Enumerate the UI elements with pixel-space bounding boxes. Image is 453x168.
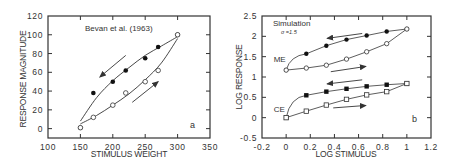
y-tick-label: 0 xyxy=(252,113,257,123)
panel-a-y-axis-title: RESPONSE MAGNITUDE xyxy=(18,30,28,128)
fit-curve xyxy=(80,37,177,121)
y-tick-label: 100 xyxy=(27,30,43,40)
open-circle-marker xyxy=(344,57,348,61)
open-circle-marker xyxy=(175,32,180,37)
panel-b-y-axis-title: LOG RESPONSE xyxy=(234,44,244,110)
filled-square-marker xyxy=(304,93,308,97)
panel-a-fit-curves xyxy=(80,37,177,124)
filled-square-marker xyxy=(384,83,388,87)
direction-arrow-icon xyxy=(132,82,158,103)
x-tick-label: 0.8 xyxy=(376,142,390,152)
open-circle-marker xyxy=(405,27,409,31)
open-square-marker xyxy=(344,97,348,101)
y-tick-label: 20 xyxy=(32,105,43,115)
open-circle-marker xyxy=(384,41,388,45)
panel-a: 100150200250300350020406080100120 Bevan … xyxy=(18,11,218,159)
panel-b: -0.200.20.40.60.811.2-0.500.511.522.5 Si… xyxy=(234,11,438,159)
open-square-marker xyxy=(384,89,388,93)
open-square-marker xyxy=(284,115,288,119)
panel-b-simulation-label: Simulation xyxy=(273,19,310,28)
direction-arrow-icon xyxy=(331,66,366,71)
y-tick-label: 0 xyxy=(38,124,43,134)
panel-b-letter: b xyxy=(412,114,417,124)
x-tick-label: 1 xyxy=(404,142,409,152)
panel-b-sigma-label: σ =1.5 xyxy=(281,29,298,35)
filled-circle-marker xyxy=(91,91,96,96)
x-tick-label: 300 xyxy=(170,142,186,152)
x-tick-label: -0.2 xyxy=(253,142,270,152)
filled-circle-marker xyxy=(384,29,388,33)
panel-a-x-axis-title: STIMULUS WEIGHT xyxy=(91,149,167,159)
filled-circle-marker xyxy=(304,52,308,56)
filled-square-marker xyxy=(364,84,368,88)
y-tick-label: 0.5 xyxy=(243,92,257,102)
filled-circle-marker xyxy=(156,45,161,50)
y-tick-label: 1.5 xyxy=(243,52,257,62)
open-circle-marker xyxy=(364,50,368,54)
x-tick-label: 100 xyxy=(40,142,56,152)
direction-arrow-icon xyxy=(333,105,366,107)
x-tick-label: 1.2 xyxy=(424,142,438,152)
filled-square-marker xyxy=(344,87,348,91)
open-circle-marker xyxy=(284,68,288,72)
panel-a-citation: Bevan et al. (1963) xyxy=(85,24,153,33)
open-square-marker xyxy=(364,93,368,97)
open-circle-marker xyxy=(324,63,328,67)
open-square-marker xyxy=(405,81,409,85)
filled-circle-marker xyxy=(344,37,348,41)
direction-arrow-icon xyxy=(327,80,362,84)
series-line xyxy=(286,29,407,70)
figure: 100150200250300350020406080100120 Bevan … xyxy=(0,0,453,168)
y-tick-label: 2.5 xyxy=(243,11,257,21)
fit-curve xyxy=(80,39,177,124)
panel-b-x-axis-title: LOG STIMULUS xyxy=(316,149,377,159)
y-tick-label: -0.5 xyxy=(240,133,257,143)
open-square-marker xyxy=(304,109,308,113)
filled-square-marker xyxy=(324,89,328,93)
direction-arrow-icon xyxy=(100,55,126,77)
y-tick-label: 80 xyxy=(32,49,43,59)
open-circle-marker xyxy=(111,103,116,108)
open-circle-marker xyxy=(156,68,161,73)
panel-a-arrows xyxy=(100,55,158,102)
filled-circle-marker xyxy=(111,79,116,84)
panel-a-data-points xyxy=(78,32,180,130)
filled-circle-marker xyxy=(143,56,148,61)
y-tick-label: 2 xyxy=(252,31,257,41)
open-circle-marker xyxy=(143,79,148,84)
open-circle-marker xyxy=(123,91,128,96)
series-line xyxy=(286,29,407,70)
y-tick-label: 120 xyxy=(27,11,43,21)
y-tick-label: 60 xyxy=(32,67,43,77)
filled-circle-marker xyxy=(324,43,328,47)
panel-b-ce-label: CE xyxy=(274,105,285,114)
panel-a-letter: a xyxy=(190,120,195,130)
open-circle-marker xyxy=(304,66,308,70)
filled-circle-marker xyxy=(364,33,368,37)
chart-canvas: 100150200250300350020406080100120 Bevan … xyxy=(0,0,453,168)
open-circle-marker xyxy=(78,125,83,130)
panel-b-me-label: ME xyxy=(274,55,286,64)
filled-circle-marker xyxy=(123,68,128,73)
y-tick-label: 40 xyxy=(32,86,43,96)
x-tick-label: 150 xyxy=(72,142,88,152)
x-tick-label: 0 xyxy=(283,142,288,152)
y-tick-label: 1 xyxy=(252,72,257,82)
panel-a-frame xyxy=(48,16,210,138)
x-tick-label: 350 xyxy=(202,142,218,152)
open-circle-marker xyxy=(91,115,96,120)
open-square-marker xyxy=(324,103,328,107)
